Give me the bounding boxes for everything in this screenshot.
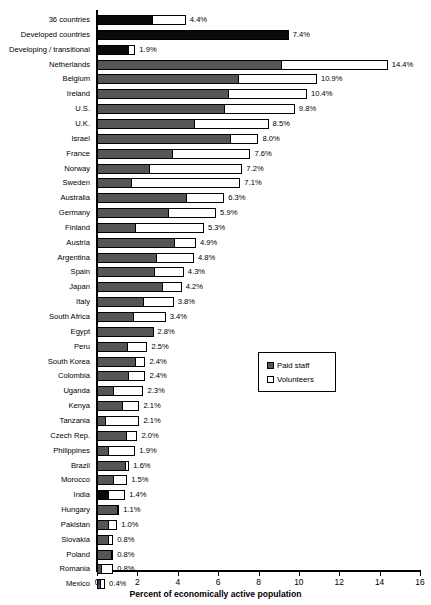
category-label: Sweden	[0, 177, 90, 189]
bar-value-label: 2.1%	[143, 400, 160, 412]
category-label: Uganda	[0, 385, 90, 397]
bar-segment-volunteers	[108, 535, 113, 545]
bar-segment-volunteers	[224, 104, 295, 114]
stacked-bar	[97, 238, 196, 248]
bar-value-label: 1.9%	[139, 445, 156, 457]
bar-segment-volunteers	[162, 282, 182, 292]
bar-row: Egypt2.8%	[0, 326, 431, 339]
bar-value-label: 7.1%	[244, 177, 261, 189]
x-axis-tick-label: 8	[239, 577, 279, 588]
bar-row: Uganda2.3%	[0, 385, 431, 398]
x-axis-tick	[380, 572, 381, 576]
bar-row: Colombia2.4%	[0, 370, 431, 383]
category-label: South Africa	[0, 311, 90, 323]
bar-row: Hungary1.1%	[0, 504, 431, 517]
category-label: Austria	[0, 237, 90, 249]
legend-swatch-volunteers-icon	[267, 376, 274, 383]
category-label: Developing / transitional	[0, 44, 90, 56]
bar-row: Netherlands14.4%	[0, 59, 431, 72]
x-axis-tick-label: 0	[77, 577, 117, 588]
bar-segment-volunteers	[125, 461, 129, 471]
stacked-bar	[97, 193, 224, 203]
bar-row: Germany5.9%	[0, 207, 431, 220]
category-label: Belgium	[0, 73, 90, 85]
stacked-bar	[97, 505, 119, 515]
bar-value-label: 1.9%	[139, 44, 156, 56]
bar-segment-paid-staff	[97, 446, 108, 456]
bar-value-label: 2.8%	[158, 326, 175, 338]
bar-segment-volunteers	[238, 74, 317, 84]
bar-segment-volunteers	[154, 267, 184, 277]
stacked-bar	[97, 386, 143, 396]
bar-value-label: 4.3%	[188, 266, 205, 278]
bar-row: Kenya2.1%	[0, 400, 431, 413]
bar-row: Philippines1.9%	[0, 445, 431, 458]
bar-segment-volunteers	[135, 357, 145, 367]
bar-value-label: 4.4%	[190, 14, 207, 26]
bar-segment-paid-staff	[97, 475, 113, 485]
bar-value-label: 2.0%	[141, 430, 158, 442]
x-axis-tick	[259, 572, 260, 576]
bar-row: Italy3.8%	[0, 296, 431, 309]
x-axis-tick-label: 10	[279, 577, 319, 588]
bar-segment-paid-staff	[97, 535, 108, 545]
bar-segment-paid-staff	[97, 134, 230, 144]
stacked-bar	[97, 119, 269, 129]
category-label: Tanzania	[0, 415, 90, 427]
bar-row: Norway7.2%	[0, 163, 431, 176]
bar-segment-paid-staff	[97, 327, 154, 337]
category-label: U.K.	[0, 118, 90, 130]
x-axis-tick	[299, 572, 300, 576]
category-label: Netherlands	[0, 59, 90, 71]
stacked-bar	[97, 164, 242, 174]
bar-segment-volunteers	[152, 15, 186, 25]
stacked-bar	[97, 104, 295, 114]
stacked-bar	[97, 15, 186, 25]
stacked-bar	[97, 431, 137, 441]
bar-segment-paid-staff	[97, 371, 128, 381]
bar-segment-paid-staff	[97, 45, 128, 55]
bar-row: 36 countries4.4%	[0, 14, 431, 27]
bar-segment-paid-staff	[97, 164, 149, 174]
bar-value-label: 2.4%	[149, 356, 166, 368]
bar-segment-paid-staff	[97, 238, 174, 248]
stacked-bar	[97, 253, 194, 263]
category-label: Germany	[0, 207, 90, 219]
stacked-bar	[97, 535, 113, 545]
bar-segment-volunteers	[128, 45, 135, 55]
stacked-bar	[97, 297, 174, 307]
stacked-bar	[97, 520, 117, 530]
stacked-bar	[97, 461, 129, 471]
category-label: Ireland	[0, 88, 90, 100]
bar-row: Developed countries7.4%	[0, 29, 431, 42]
bar-row: U.K.8.5%	[0, 118, 431, 131]
bar-segment-paid-staff	[97, 386, 113, 396]
bar-segment-volunteers	[105, 416, 139, 426]
category-label: Slovakia	[0, 534, 90, 546]
bar-segment-paid-staff	[97, 431, 126, 441]
bar-segment-volunteers	[108, 446, 135, 456]
bar-segment-paid-staff	[97, 208, 168, 218]
bar-value-label: 10.4%	[311, 88, 333, 100]
category-label: Czech Rep.	[0, 430, 90, 442]
bar-segment-paid-staff	[97, 490, 108, 500]
bar-segment-volunteers	[172, 149, 251, 159]
bar-row: Romania0.8%	[0, 563, 431, 576]
category-label: Argentina	[0, 252, 90, 264]
category-label: Colombia	[0, 370, 90, 382]
bar-segment-paid-staff	[97, 253, 156, 263]
bar-value-label: 4.9%	[200, 237, 217, 249]
category-label: India	[0, 489, 90, 501]
stacked-bar	[97, 342, 147, 352]
category-label: South Korea	[0, 356, 90, 368]
category-label: Philippines	[0, 445, 90, 457]
bar-value-label: 4.2%	[186, 281, 203, 293]
bar-segment-volunteers	[101, 564, 113, 574]
bar-row: India1.4%	[0, 489, 431, 502]
bar-value-label: 1.1%	[123, 504, 140, 516]
bar-segment-volunteers	[108, 520, 117, 530]
bar-row: Austria4.9%	[0, 237, 431, 250]
bar-segment-paid-staff	[97, 461, 125, 471]
category-label: France	[0, 148, 90, 160]
category-label: Developed countries	[0, 29, 90, 41]
